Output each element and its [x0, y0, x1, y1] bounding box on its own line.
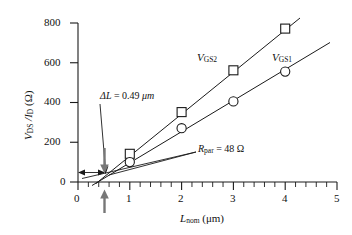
rpar-value: = 48 Ω [214, 143, 245, 154]
x-tick-label-2: 2 [178, 193, 184, 204]
figure-chart: 800 600 400 200 0 0 1 2 3 4 5 VDS /ID (Ω… [0, 0, 352, 235]
x-axis-title-unit: (μm) [199, 212, 224, 224]
intersection-arrow-top [100, 148, 109, 174]
x-tick-label-4: 4 [282, 193, 288, 204]
y-axis-title-i: I [22, 114, 34, 118]
x-tick-label-5: 5 [334, 193, 340, 204]
x-axis-title-sub: nom [186, 216, 199, 225]
x-axis-title: Lnom (μm) [180, 213, 224, 225]
x-axis-major-ticks [78, 182, 337, 190]
y-axis-title-sub-d: D [26, 109, 35, 114]
y-axis-title-slash: / [22, 118, 34, 124]
y-axis-title: VDS /ID (Ω) [22, 91, 35, 141]
rpar-leader-line [109, 152, 196, 175]
axis-lines [78, 23, 337, 182]
y-axis-title-v: V [22, 133, 34, 140]
annotation-rpar: Rpar = 48 Ω [198, 144, 244, 155]
vgs2-v: V [197, 51, 204, 63]
chart-canvas [0, 0, 352, 235]
series-label-vgs2: VGS2 [197, 52, 217, 64]
x-tick-label-1: 1 [126, 193, 132, 204]
y-axis-title-sub-ds: DS [26, 124, 35, 134]
y-tick-label-0: 0 [60, 176, 66, 187]
y-axis-title-unit: (Ω) [22, 91, 34, 109]
y-tick-label-400: 400 [44, 96, 61, 107]
x-tick-label-3: 3 [230, 193, 236, 204]
y-axis-ticks [70, 23, 78, 182]
vgs1-v: V [272, 51, 279, 63]
y-tick-label-800: 800 [44, 17, 61, 28]
series-label-vgs1: VGS1 [272, 52, 292, 64]
delta-l-unit: μm [142, 90, 154, 101]
delta-l-value: = 0.49 [111, 90, 142, 101]
annotation-delta-l: ΔL = 0.49 μm [100, 91, 154, 101]
y-tick-label-600: 600 [44, 57, 61, 68]
rpar-sub: par [204, 146, 214, 155]
intersection-arrow-bottom [100, 190, 109, 214]
y-tick-label-200: 200 [44, 136, 61, 147]
x-tick-label-0: 0 [74, 193, 80, 204]
vgs2-sub: GS2 [204, 55, 217, 64]
vgs1-sub: GS1 [279, 55, 292, 64]
x-axis-minor-ticks [88, 182, 326, 187]
